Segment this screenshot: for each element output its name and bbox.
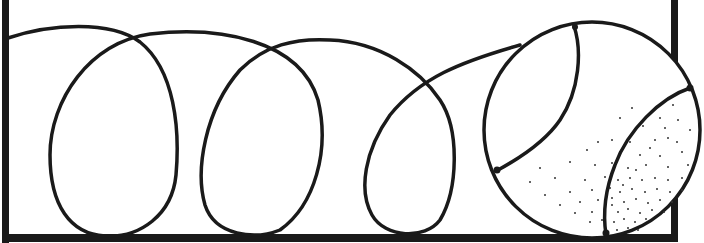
looping-line <box>8 27 520 237</box>
ball <box>484 22 700 238</box>
illustration: Line drawing of a looping line forming t… <box>0 0 704 243</box>
ball-outline <box>484 22 700 238</box>
drawing-svg <box>0 0 704 243</box>
